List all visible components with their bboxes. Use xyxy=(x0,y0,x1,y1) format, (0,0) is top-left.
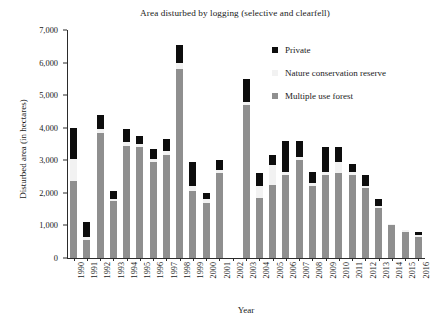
bar-segment-private xyxy=(189,162,196,186)
legend-item: Private xyxy=(272,44,440,55)
x-tick-mark xyxy=(193,258,194,261)
bar-group xyxy=(349,164,356,258)
y-tick-label: 2,000 xyxy=(0,188,58,197)
x-tick-label: 2008 xyxy=(315,262,324,278)
x-tick-label: 1998 xyxy=(183,262,192,278)
bar-segment-multiple-use xyxy=(243,105,250,258)
x-tick-mark xyxy=(392,258,393,261)
bar-segment-private xyxy=(123,129,130,142)
bar-segment-private xyxy=(362,175,369,186)
bar-segment-private xyxy=(269,155,276,165)
bar-group xyxy=(203,193,210,258)
bar-group xyxy=(97,115,104,258)
legend-label: Nature conservation reserve xyxy=(285,68,386,78)
bar-group xyxy=(296,141,303,258)
bar-group xyxy=(150,149,157,258)
chart-title: Area disturbed by logging (selective and… xyxy=(70,8,400,18)
bar-segment-reserve xyxy=(335,162,342,173)
y-tick-label: 7,000 xyxy=(0,26,58,35)
bar-group xyxy=(83,222,90,258)
bar-group xyxy=(123,129,130,258)
bar-segment-multiple-use xyxy=(296,160,303,258)
x-tick-mark xyxy=(379,258,380,261)
x-tick-label: 1990 xyxy=(77,262,86,278)
x-tick-mark xyxy=(233,258,234,261)
bar-segment-private xyxy=(349,164,356,172)
x-tick-mark xyxy=(219,258,220,261)
x-tick-label: 2011 xyxy=(355,262,364,278)
bar-group xyxy=(70,128,77,258)
x-tick-mark xyxy=(127,258,128,261)
bar-segment-multiple-use xyxy=(362,188,369,258)
bar-group xyxy=(362,175,369,258)
chart-figure: Area disturbed by logging (selective and… xyxy=(0,0,441,327)
bar-segment-multiple-use xyxy=(322,175,329,258)
bar-segment-private xyxy=(309,172,316,183)
x-tick-mark xyxy=(365,258,366,261)
legend-item: Nature conservation reserve xyxy=(272,67,440,78)
bar-group xyxy=(243,79,250,258)
x-tick-label: 1993 xyxy=(117,262,126,278)
bar-segment-multiple-use xyxy=(203,203,210,258)
x-tick-mark xyxy=(326,258,327,261)
bar-segment-multiple-use xyxy=(123,146,130,258)
x-tick-mark xyxy=(286,258,287,261)
x-axis-label: Year xyxy=(67,305,425,315)
bar-segment-multiple-use xyxy=(388,225,395,258)
x-tick-label: 2013 xyxy=(382,262,391,278)
bar-segment-multiple-use xyxy=(349,175,356,258)
x-tick-mark xyxy=(153,258,154,261)
x-tick-label: 2014 xyxy=(395,262,404,278)
bar-segment-private xyxy=(322,147,329,171)
bar-segment-multiple-use xyxy=(402,232,409,258)
bar-segment-multiple-use xyxy=(176,69,183,258)
x-tick-label: 2003 xyxy=(249,262,258,278)
legend-item: Multiple use forest xyxy=(272,90,440,101)
bar-segment-private xyxy=(150,149,157,159)
y-axis-ticks: 01,0002,0003,0004,0005,0006,0007,000 xyxy=(0,0,67,327)
x-tick-label: 1992 xyxy=(103,262,112,278)
bar-segment-multiple-use xyxy=(150,162,157,258)
bar-segment-multiple-use xyxy=(163,155,170,258)
bar-group xyxy=(309,172,316,258)
bar-segment-multiple-use xyxy=(189,191,196,258)
x-tick-label: 2004 xyxy=(262,262,271,278)
x-tick-label: 2015 xyxy=(408,262,417,278)
x-tick-label: 1999 xyxy=(196,262,205,278)
legend-label: Multiple use forest xyxy=(285,91,353,101)
x-tick-mark xyxy=(100,258,101,261)
x-tick-label: 1994 xyxy=(130,262,139,278)
x-tick-label: 1996 xyxy=(156,262,165,278)
bar-group xyxy=(415,232,422,258)
x-tick-mark xyxy=(352,258,353,261)
legend-swatch-icon xyxy=(272,93,278,99)
bar-segment-multiple-use xyxy=(375,208,382,258)
bar-segment-multiple-use xyxy=(282,175,289,258)
bar-group xyxy=(335,147,342,258)
x-tick-mark xyxy=(180,258,181,261)
x-tick-mark xyxy=(206,258,207,261)
bar-segment-multiple-use xyxy=(70,181,77,258)
x-tick-mark xyxy=(74,258,75,261)
bar-segment-private xyxy=(110,191,117,199)
x-tick-label: 2001 xyxy=(223,262,232,278)
x-tick-mark xyxy=(259,258,260,261)
legend-swatch-icon xyxy=(272,47,278,53)
x-tick-mark xyxy=(246,258,247,261)
y-tick-label: 1,000 xyxy=(0,221,58,230)
bar-segment-private xyxy=(256,173,263,186)
bar-group xyxy=(189,162,196,258)
y-tick-label: 3,000 xyxy=(0,156,58,165)
bar-segment-private xyxy=(163,139,170,150)
x-tick-label: 2002 xyxy=(236,262,245,278)
x-tick-mark xyxy=(299,258,300,261)
x-tick-label: 2010 xyxy=(342,262,351,278)
bar-group xyxy=(388,224,395,258)
x-tick-mark xyxy=(273,258,274,261)
y-axis-label: Disturbed area (in hectares) xyxy=(18,49,28,249)
bar-segment-private xyxy=(243,79,250,102)
x-tick-label: 2016 xyxy=(422,262,431,278)
chart-legend: PrivateNature conservation reserveMultip… xyxy=(272,44,440,113)
bar-segment-multiple-use xyxy=(110,201,117,258)
bar-segment-reserve xyxy=(70,159,77,182)
